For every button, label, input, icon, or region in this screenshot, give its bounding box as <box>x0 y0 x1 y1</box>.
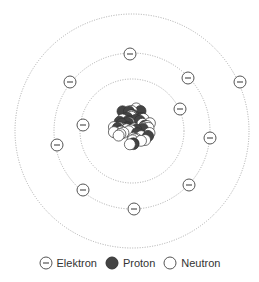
electron <box>124 48 136 60</box>
electron <box>64 76 76 88</box>
electron <box>174 103 186 115</box>
legend-label-neutron: Neutron <box>181 257 220 269</box>
legend-item-neutron: Neutron <box>163 256 220 270</box>
atom-diagram <box>0 0 259 250</box>
electron <box>182 72 194 84</box>
legend-label-electron: Elektron <box>57 257 97 269</box>
neutron <box>113 130 124 141</box>
legend-item-electron: Elektron <box>39 256 97 270</box>
electron <box>128 203 140 215</box>
electron <box>204 132 216 144</box>
electron <box>234 76 246 88</box>
legend-label-proton: Proton <box>123 257 155 269</box>
electron <box>51 139 63 151</box>
neutron-icon <box>163 256 177 270</box>
electron <box>183 179 195 191</box>
electron <box>77 119 89 131</box>
legend: Elektron Proton Neutron <box>0 256 259 270</box>
legend-item-proton: Proton <box>105 256 155 270</box>
electron-icon <box>39 256 53 270</box>
nucleus <box>108 103 155 150</box>
proton-icon <box>105 256 119 270</box>
neutron <box>124 139 135 150</box>
electron <box>77 184 89 196</box>
